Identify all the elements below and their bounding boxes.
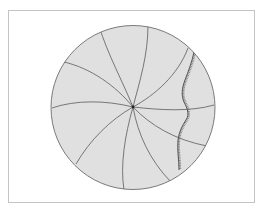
center-point	[132, 106, 135, 109]
spiral-disc-diagram	[0, 0, 265, 215]
